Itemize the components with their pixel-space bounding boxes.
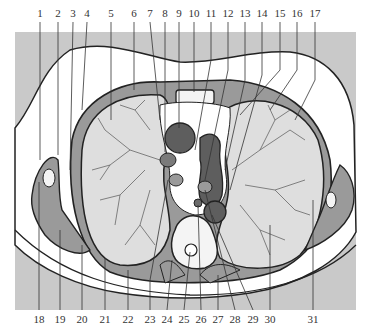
label-4: 4 [84, 8, 90, 19]
label-20: 20 [77, 314, 88, 325]
label-15: 15 [275, 8, 286, 19]
label-28: 28 [230, 314, 241, 325]
anatomy-drawing [0, 0, 371, 333]
label-22: 22 [123, 314, 134, 325]
label-6: 6 [131, 8, 137, 19]
label-12: 12 [223, 8, 234, 19]
label-29: 29 [248, 314, 259, 325]
right-main-bronchus [169, 174, 183, 186]
superior-vena-cava [160, 153, 176, 167]
label-13: 13 [240, 8, 251, 19]
pulmonary-trunk [199, 134, 223, 206]
label-26: 26 [196, 314, 207, 325]
left-lung [81, 95, 170, 266]
left-scapula [43, 169, 55, 187]
label-1: 1 [37, 8, 43, 19]
label-27: 27 [213, 314, 224, 325]
label-8: 8 [162, 8, 168, 19]
label-10: 10 [189, 8, 200, 19]
label-17: 17 [310, 8, 321, 19]
label-25: 25 [179, 314, 190, 325]
label-3: 3 [70, 8, 76, 19]
thorax-cross-section-figure: 1 2 3 4 5 6 7 8 9 10 11 12 13 14 15 16 1… [0, 0, 371, 333]
label-18: 18 [34, 314, 45, 325]
label-31: 31 [308, 314, 319, 325]
label-2: 2 [55, 8, 61, 19]
label-19: 19 [55, 314, 66, 325]
right-scapula [326, 192, 336, 208]
label-9: 9 [176, 8, 182, 19]
label-21: 21 [100, 314, 111, 325]
ascending-aorta [165, 123, 195, 153]
label-5: 5 [108, 8, 114, 19]
label-7: 7 [147, 8, 153, 19]
label-30: 30 [265, 314, 276, 325]
descending-aorta [204, 201, 226, 223]
label-24: 24 [162, 314, 173, 325]
label-16: 16 [292, 8, 303, 19]
label-23: 23 [145, 314, 156, 325]
spinal-cord [185, 244, 197, 256]
label-14: 14 [257, 8, 268, 19]
label-11: 11 [206, 8, 217, 19]
